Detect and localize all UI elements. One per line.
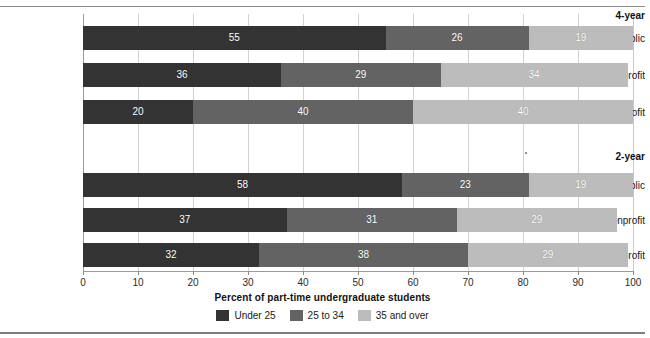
group-header-2year: 2-year bbox=[567, 151, 645, 162]
bar-value-label: 19 bbox=[575, 180, 586, 190]
legend-label: 25 to 34 bbox=[308, 310, 344, 321]
bar-value-label: 26 bbox=[451, 33, 462, 43]
x-tick-40 bbox=[303, 271, 304, 275]
legend-swatch-icon bbox=[290, 310, 303, 321]
bar-value-label: 23 bbox=[460, 180, 471, 190]
bar-value-label: 37 bbox=[179, 215, 190, 225]
bar-value-label: 40 bbox=[297, 107, 308, 117]
bar-segment-25to34[interactable]: 40 bbox=[193, 100, 413, 124]
x-tick-10 bbox=[138, 271, 139, 275]
gridline-30 bbox=[248, 14, 249, 272]
bar-segment-25to34[interactable]: 31 bbox=[287, 208, 458, 232]
y-axis-line bbox=[83, 14, 84, 272]
bar-segment-35andover[interactable]: 40 bbox=[413, 100, 633, 124]
x-tick-label-80: 80 bbox=[503, 277, 543, 288]
gridline-90 bbox=[578, 14, 579, 272]
x-tick-label-100: 100 bbox=[613, 277, 650, 288]
legend-item-35andover[interactable]: 35 and over bbox=[358, 310, 429, 321]
x-tick-70 bbox=[468, 271, 469, 275]
bar-value-label: 36 bbox=[176, 70, 187, 80]
bar-segment-35andover[interactable]: 29 bbox=[457, 208, 617, 232]
bar-segment-under25[interactable]: 58 bbox=[83, 173, 402, 197]
bar-value-label: 20 bbox=[132, 107, 143, 117]
top-divider-rule bbox=[0, 6, 645, 7]
bar-value-label: 55 bbox=[229, 33, 240, 43]
bar-segment-under25[interactable]: 20 bbox=[83, 100, 193, 124]
gridline-70 bbox=[468, 14, 469, 272]
bar-segment-under25[interactable]: 36 bbox=[83, 63, 281, 87]
legend-swatch-icon bbox=[358, 310, 371, 321]
x-tick-label-60: 60 bbox=[393, 277, 433, 288]
bar-row[interactable]: 20 40 40 bbox=[83, 100, 633, 124]
x-tick-label-20: 20 bbox=[173, 277, 213, 288]
x-tick-label-10: 10 bbox=[118, 277, 158, 288]
bar-row[interactable]: 55 26 19 bbox=[83, 26, 633, 50]
bar-value-label: 29 bbox=[531, 215, 542, 225]
x-tick-20 bbox=[193, 271, 194, 275]
x-tick-80 bbox=[523, 271, 524, 275]
bar-segment-35andover[interactable]: 29 bbox=[468, 243, 628, 267]
bar-value-label: 29 bbox=[542, 250, 553, 260]
bar-segment-25to34[interactable]: 38 bbox=[259, 243, 468, 267]
plot-right-border bbox=[633, 14, 634, 272]
x-tick-30 bbox=[248, 271, 249, 275]
gridline-50 bbox=[358, 14, 359, 272]
legend-item-25to34[interactable]: 25 to 34 bbox=[290, 310, 344, 321]
bar-segment-25to34[interactable]: 29 bbox=[281, 63, 441, 87]
bar-segment-under25[interactable]: 37 bbox=[83, 208, 287, 232]
x-tick-0 bbox=[83, 271, 84, 275]
x-tick-label-0: 0 bbox=[63, 277, 103, 288]
bar-row[interactable]: 37 31 29 bbox=[83, 208, 617, 232]
bar-value-label: 40 bbox=[517, 107, 528, 117]
legend-label: 35 and over bbox=[376, 310, 429, 321]
chart-legend: Under 25 25 to 34 35 and over bbox=[0, 310, 645, 321]
x-tick-90 bbox=[578, 271, 579, 275]
gridline-40 bbox=[303, 14, 304, 272]
legend-item-under25[interactable]: Under 25 bbox=[216, 310, 275, 321]
bar-row[interactable]: 58 23 19 bbox=[83, 173, 633, 197]
group-header-4year: 4-year bbox=[567, 10, 645, 21]
bar-value-label: 38 bbox=[358, 250, 369, 260]
gridline-80 bbox=[523, 14, 524, 272]
legend-swatch-icon bbox=[216, 310, 229, 321]
legend-label: Under 25 bbox=[234, 310, 275, 321]
x-tick-label-70: 70 bbox=[448, 277, 488, 288]
x-tick-60 bbox=[413, 271, 414, 275]
bar-value-label: 29 bbox=[355, 70, 366, 80]
x-tick-100 bbox=[633, 271, 634, 275]
x-tick-label-90: 90 bbox=[558, 277, 598, 288]
bar-row[interactable]: 32 38 29 bbox=[83, 243, 628, 267]
bar-segment-35andover[interactable]: 19 bbox=[529, 173, 634, 197]
gridline-20 bbox=[193, 14, 194, 272]
x-axis-title: Percent of part-time undergraduate stude… bbox=[0, 292, 645, 303]
bar-segment-25to34[interactable]: 23 bbox=[402, 173, 529, 197]
x-tick-label-40: 40 bbox=[283, 277, 323, 288]
bar-row[interactable]: 36 29 34 bbox=[83, 63, 628, 87]
bar-value-label: 34 bbox=[528, 70, 539, 80]
x-tick-label-30: 30 bbox=[228, 277, 268, 288]
bottom-divider-rule bbox=[0, 332, 645, 334]
bar-segment-under25[interactable]: 32 bbox=[83, 243, 259, 267]
bar-value-label: 19 bbox=[575, 33, 586, 43]
x-tick-label-50: 50 bbox=[338, 277, 378, 288]
page-speck bbox=[525, 152, 527, 154]
bar-value-label: 32 bbox=[165, 250, 176, 260]
gridline-10 bbox=[138, 14, 139, 272]
bar-segment-25to34[interactable]: 26 bbox=[386, 26, 529, 50]
x-tick-50 bbox=[358, 271, 359, 275]
gridline-60 bbox=[413, 14, 414, 272]
bar-segment-under25[interactable]: 55 bbox=[83, 26, 386, 50]
bar-segment-35andover[interactable]: 34 bbox=[441, 63, 628, 87]
bar-value-label: 58 bbox=[237, 180, 248, 190]
bar-segment-35andover[interactable]: 19 bbox=[529, 26, 634, 50]
bar-value-label: 31 bbox=[366, 215, 377, 225]
